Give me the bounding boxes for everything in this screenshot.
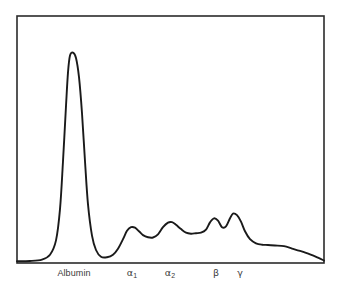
axis-label-gamma-text: γ — [237, 267, 243, 278]
electrophoresis-figure: Albumin α1 α2 β γ — [0, 0, 339, 292]
axis-label-gamma: γ — [180, 267, 300, 279]
densitometry-plot — [0, 0, 339, 292]
